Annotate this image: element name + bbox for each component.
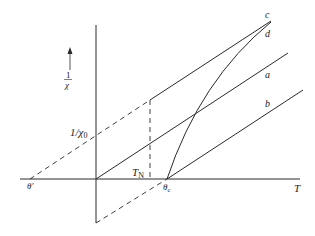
y-axis-label: 1 χ — [64, 70, 72, 90]
svg-text:1: 1 — [66, 70, 71, 80]
inverse-susceptibility-diagram: 1 χ 1/χ0 θ' θc TN T c d a b — [0, 0, 315, 236]
theta-c-label: θc — [163, 182, 171, 194]
curve-label-c: c — [265, 9, 270, 20]
svg-text:θc: θc — [163, 182, 171, 194]
line-b — [167, 90, 303, 179]
line-b-dashed-extension — [96, 179, 167, 223]
intercept-label: 1/χ0 — [70, 126, 87, 140]
tn-label: TN — [132, 166, 144, 180]
svg-text:1/χ0: 1/χ0 — [70, 126, 87, 140]
up-arrow-icon — [68, 47, 73, 54]
svg-text:TN: TN — [132, 166, 144, 180]
line-a — [96, 53, 288, 179]
svg-text:χ: χ — [64, 80, 70, 90]
theta-prime-label: θ' — [27, 181, 34, 191]
curve-label-b: b — [265, 98, 270, 109]
x-axis-label: T — [294, 182, 301, 194]
curve-d — [167, 22, 271, 179]
curve-label-d: d — [265, 28, 271, 39]
curve-label-a: a — [265, 69, 270, 80]
